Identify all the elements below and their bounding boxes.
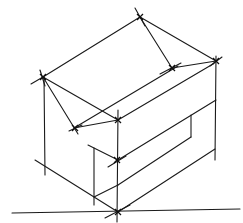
background: [0, 0, 243, 223]
isometric-box-drawing: [0, 0, 243, 223]
sketch-canvas: Isometric box sketch: [0, 0, 243, 223]
